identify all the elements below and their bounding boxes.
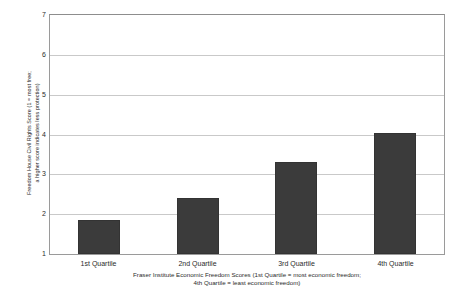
bar-slot — [50, 15, 149, 254]
y-axis-tick-labels: 1234567 — [30, 8, 46, 261]
x-axis-title: Fraser Institute Economic Freedom Scores… — [49, 271, 445, 288]
y-axis-tick-label: 3 — [30, 170, 46, 177]
y-axis-tick-label: 1 — [30, 250, 46, 257]
bar[interactable] — [78, 220, 120, 254]
x-axis-tick-label: 1st Quartile — [49, 258, 148, 270]
x-axis-tick-label: 2nd Quartile — [148, 258, 247, 270]
bar-slot — [247, 15, 346, 254]
plot-area — [49, 14, 445, 255]
y-axis-tick-label: 2 — [30, 210, 46, 217]
bar-chart: Freedom House Civil Rights Score (1 = mo… — [0, 0, 459, 295]
x-axis-tick-label: 4th Quartile — [346, 258, 445, 270]
x-axis-tick-label: 3rd Quartile — [247, 258, 346, 270]
y-axis-tick-label: 6 — [30, 50, 46, 57]
y-axis-tick-label: 7 — [30, 11, 46, 18]
bar-slot — [346, 15, 445, 254]
x-axis-tick-labels: 1st Quartile2nd Quartile3rd Quartile4th … — [49, 258, 445, 270]
bar[interactable] — [275, 162, 317, 254]
y-axis-tick-label: 4 — [30, 130, 46, 137]
bar[interactable] — [374, 133, 416, 254]
bar[interactable] — [177, 198, 219, 254]
bar-slot — [149, 15, 248, 254]
y-axis-tick-label: 5 — [30, 90, 46, 97]
bars-group — [50, 15, 444, 254]
